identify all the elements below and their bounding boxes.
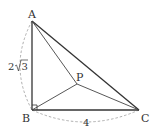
label-a: A: [27, 8, 37, 21]
segment-bp: [32, 84, 77, 110]
triangle-diagram: A B C P 2 3 4: [0, 0, 157, 137]
segment-ac: [32, 21, 139, 110]
measurement-ab: 2 3: [8, 60, 28, 72]
measurement-ab-radicand: 3: [22, 61, 28, 72]
label-p: P: [76, 71, 84, 84]
label-b: B: [22, 112, 30, 125]
measurement-bc: 4: [83, 117, 89, 128]
label-c: C: [141, 112, 149, 125]
segment-cp: [77, 84, 139, 110]
measurement-ab-prefix: 2: [8, 61, 14, 72]
